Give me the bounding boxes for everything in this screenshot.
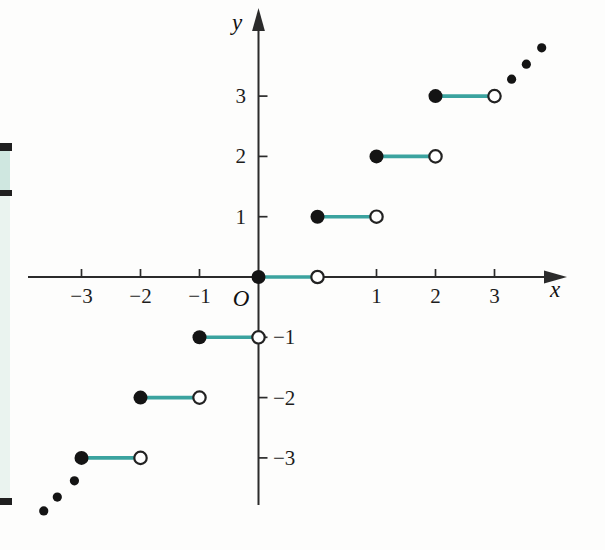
continuation-dot-upper xyxy=(507,75,516,84)
open-endpoint-circle xyxy=(252,331,264,343)
continuation-dot-lower xyxy=(39,506,48,515)
continuation-dot-upper xyxy=(537,43,546,52)
x-tick-label: 1 xyxy=(371,284,382,308)
continuation-dot-lower xyxy=(70,476,79,485)
y-tick-label: −3 xyxy=(273,446,295,470)
x-tick-label: −3 xyxy=(70,284,92,308)
x-tick-label: 2 xyxy=(430,284,441,308)
closed-endpoint-dot xyxy=(311,210,325,224)
closed-endpoint-dot xyxy=(75,451,89,465)
y-axis-arrowhead xyxy=(252,8,265,31)
closed-endpoint-dot xyxy=(370,149,384,163)
y-tick-label: −1 xyxy=(273,325,295,349)
x-tick-label: −2 xyxy=(129,284,151,308)
continuation-dot-lower xyxy=(53,492,62,501)
continuation-dot-upper xyxy=(522,60,531,69)
y-tick-label: 2 xyxy=(236,144,247,168)
open-endpoint-circle xyxy=(488,90,500,102)
closed-endpoint-dot xyxy=(134,391,148,405)
figure-page: −3−2−1123321−1−2−3yxO xyxy=(0,0,605,550)
closed-endpoint-dot xyxy=(429,89,443,103)
closed-endpoint-dot xyxy=(252,270,266,284)
x-axis-label: x xyxy=(549,277,561,302)
open-endpoint-circle xyxy=(429,150,441,162)
open-endpoint-circle xyxy=(370,211,382,223)
x-tick-label: 3 xyxy=(489,284,500,308)
y-tick-label: 3 xyxy=(236,84,247,108)
y-tick-label: 1 xyxy=(236,205,247,229)
closed-endpoint-dot xyxy=(193,330,207,344)
y-axis-label: y xyxy=(230,10,243,35)
open-endpoint-circle xyxy=(134,452,146,464)
y-tick-label: −2 xyxy=(273,386,295,410)
open-endpoint-circle xyxy=(311,271,323,283)
origin-label: O xyxy=(233,286,250,311)
open-endpoint-circle xyxy=(193,391,205,403)
step-function-plot: −3−2−1123321−1−2−3yxO xyxy=(0,0,605,550)
x-tick-label: −1 xyxy=(188,284,210,308)
